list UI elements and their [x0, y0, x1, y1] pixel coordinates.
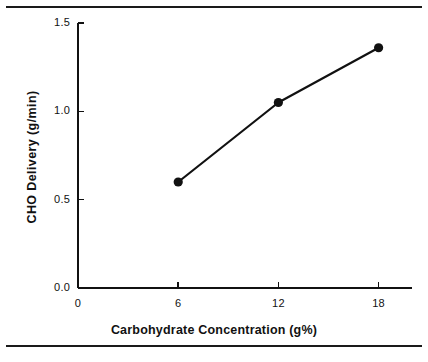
tick-marks-group	[78, 23, 379, 288]
y-tick-label: 1.0	[36, 104, 70, 116]
x-tick-label: 18	[364, 297, 394, 309]
figure-panel: 0.00.51.01.5 061218 CHO Delivery (g/min)…	[0, 0, 428, 362]
axes-group	[78, 23, 412, 288]
y-tick-label: 1.5	[36, 16, 70, 28]
data-point-marker	[274, 98, 283, 107]
x-tick-label: 0	[63, 297, 93, 309]
data-series-group	[174, 43, 384, 186]
series-line	[178, 48, 378, 182]
y-tick-label: 0.5	[36, 193, 70, 205]
x-tick-label: 6	[163, 297, 193, 309]
x-tick-label: 12	[263, 297, 293, 309]
y-axis-title: CHO Delivery (g/min)	[25, 57, 39, 257]
data-point-marker	[174, 177, 183, 186]
y-tick-label: 0.0	[36, 281, 70, 293]
data-point-marker	[374, 43, 383, 52]
x-axis-title: Carbohydrate Concentration (g%)	[0, 323, 428, 337]
